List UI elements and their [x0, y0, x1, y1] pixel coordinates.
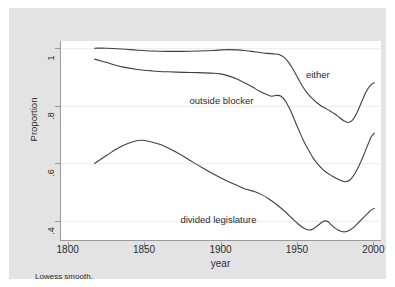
x-tick-label-2000: 2000: [350, 244, 395, 255]
graph-region: Proportion 1.8.6.4 eitheroutside blocker…: [9, 8, 386, 279]
figure-canvas: Proportion 1.8.6.4 eitheroutside blocker…: [0, 0, 395, 287]
x-tick-label-1800: 1800: [45, 244, 91, 255]
x-axis-title: year: [60, 258, 381, 269]
series-label-divided-legislature: divided legislature: [180, 214, 256, 225]
x-tick-label-1900: 1900: [198, 244, 244, 255]
y-tick-label-.6: .6: [46, 161, 56, 185]
chart-note: Lowess smooth.: [35, 272, 93, 281]
y-axis-title: Proportion: [28, 80, 39, 160]
series-label-either: either: [306, 69, 330, 80]
x-tick-label-1850: 1850: [121, 244, 167, 255]
y-tick-label-.4: .4: [46, 219, 56, 243]
series-curves: [95, 48, 375, 232]
series-line-either: [95, 48, 375, 122]
y-tick-label-1: 1: [46, 46, 56, 70]
plot-region: eitheroutside blockerdivided legislature: [60, 41, 381, 241]
y-tick-label-.8: .8: [46, 104, 56, 128]
plot-svg: [61, 41, 382, 241]
series-label-outside-blocker: outside blocker: [190, 95, 254, 106]
x-tick-label-1950: 1950: [274, 244, 320, 255]
